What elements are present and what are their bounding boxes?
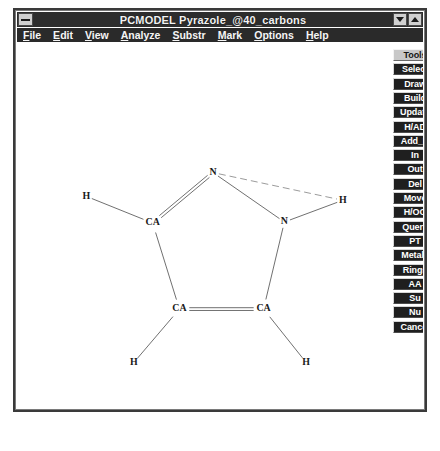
tool-button-draw[interactable]: Draw xyxy=(393,78,423,90)
bond-n2-ca5[interactable] xyxy=(266,228,283,300)
drawing-client-area: NNCACACAHHHH ToolsSelectDrawBuildUpdateH… xyxy=(17,43,423,408)
atom-label-h9[interactable]: H xyxy=(302,356,310,367)
maximize-button[interactable] xyxy=(408,13,422,26)
menu-item-analyze[interactable]: Analyze xyxy=(121,29,161,41)
tool-button-move[interactable]: Move xyxy=(393,192,423,204)
menu-item-edit[interactable]: Edit xyxy=(53,29,73,41)
tool-button-rings[interactable]: Rings xyxy=(393,264,423,276)
tool-button-h-ad[interactable]: H/AD xyxy=(393,121,423,133)
atom-label-ca4[interactable]: CA xyxy=(172,302,187,313)
tool-button-add-b[interactable]: Add_B xyxy=(393,135,423,147)
tool-button-update[interactable]: Update xyxy=(393,106,423,118)
bond-ca5-h9[interactable] xyxy=(270,317,303,358)
system-menu-icon[interactable] xyxy=(18,13,33,26)
tool-button-build[interactable]: Build xyxy=(393,92,423,104)
menu-item-view[interactable]: View xyxy=(85,29,109,41)
bond-n2-h7[interactable] xyxy=(290,202,337,220)
atom-label-h6[interactable]: H xyxy=(82,190,90,201)
minimize-arrow-icon xyxy=(396,17,404,22)
tool-palette: ToolsSelectDrawBuildUpdateH/ADAdd_BInOut… xyxy=(391,43,423,408)
tool-button-select[interactable]: Select xyxy=(393,63,423,75)
tool-button-su[interactable]: Su xyxy=(393,292,423,304)
title-bar: PCMODEL Pyrazole_@40_carbons xyxy=(17,12,423,27)
tool-button-tools[interactable]: Tools xyxy=(393,49,423,61)
tool-button-out[interactable]: Out xyxy=(393,163,423,175)
molecule-canvas[interactable]: NNCACACAHHHH xyxy=(17,43,423,408)
menu-item-file[interactable]: File xyxy=(23,29,41,41)
atom-label-n2[interactable]: N xyxy=(281,215,288,226)
tool-button-aa[interactable]: AA xyxy=(393,278,423,290)
screenshot-root: PCMODEL Pyrazole_@40_carbons FileEditVie… xyxy=(0,0,440,451)
tool-button-pt[interactable]: PT xyxy=(393,235,423,247)
tool-button-nu[interactable]: Nu xyxy=(393,306,423,318)
bond-n1-ca3[interactable] xyxy=(161,177,209,217)
atom-label-n1[interactable]: N xyxy=(209,166,216,177)
bond-ca3-ca4[interactable] xyxy=(156,232,177,299)
tool-button-metals[interactable]: Metals xyxy=(393,249,423,261)
atom-label-ca5[interactable]: CA xyxy=(256,302,271,313)
tool-button-del[interactable]: Del xyxy=(393,178,423,190)
window-title: PCMODEL Pyrazole_@40_carbons xyxy=(33,14,393,26)
menu-item-options[interactable]: Options xyxy=(254,29,294,41)
bond-n1-h7[interactable] xyxy=(219,174,337,199)
bond-n1-n2[interactable] xyxy=(218,176,280,219)
minimize-button[interactable] xyxy=(393,13,407,26)
tool-button-query[interactable]: Query xyxy=(393,221,423,233)
molecule-svg: NNCACACAHHHH xyxy=(17,43,423,408)
atom-label-h8[interactable]: H xyxy=(130,356,138,367)
atom-label-ca3[interactable]: CA xyxy=(146,216,161,227)
window-buttons xyxy=(393,13,422,26)
menu-bar: FileEditViewAnalyzeSubstrMarkOptionsHelp xyxy=(17,28,423,42)
tool-button-h-oo[interactable]: H/OO xyxy=(393,206,423,218)
bond-ca3-h6[interactable] xyxy=(92,199,144,220)
menu-item-help[interactable]: Help xyxy=(306,29,329,41)
maximize-arrow-icon xyxy=(411,17,419,22)
bond-ca4-h8[interactable] xyxy=(138,317,173,358)
bond-n1-ca3[interactable] xyxy=(159,175,207,215)
tool-button-in[interactable]: In xyxy=(393,149,423,161)
atom-label-h7[interactable]: H xyxy=(339,194,347,205)
menu-item-substr[interactable]: Substr xyxy=(172,29,205,41)
tool-button-cancel[interactable]: Cancel xyxy=(393,321,423,333)
menu-item-mark[interactable]: Mark xyxy=(218,29,243,41)
pcmodel-window: PCMODEL Pyrazole_@40_carbons FileEditVie… xyxy=(13,8,427,412)
